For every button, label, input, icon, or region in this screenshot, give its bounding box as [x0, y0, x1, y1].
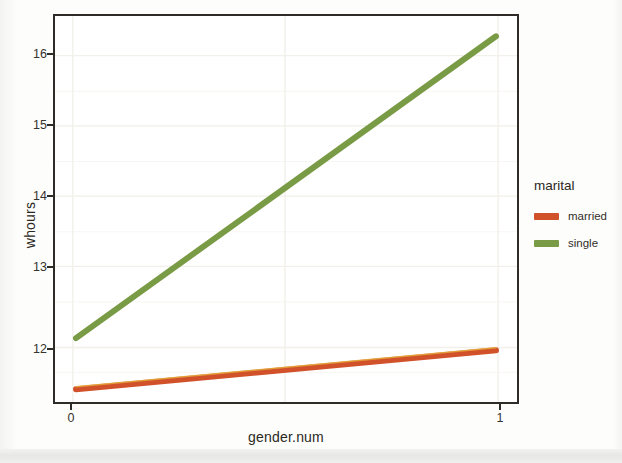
legend-swatch-married [534, 213, 559, 220]
x-tick-label-1: 1 [497, 412, 504, 425]
scan-edge-left [0, 0, 18, 449]
plot-panel [53, 14, 519, 404]
legend-item-married[interactable]: married [534, 205, 620, 227]
series-line-married-scan-highlight [76, 348, 496, 387]
legend-item-single[interactable]: single [534, 232, 620, 254]
plot-area [55, 16, 517, 402]
x-tick-mark-0 [70, 404, 72, 410]
chart-figure: 16 15 14 13 12 whours 0 1 gender.num mar… [0, 0, 622, 463]
y-tick-mark-15 [47, 124, 53, 126]
y-tick-mark-13 [47, 266, 53, 268]
y-tick-mark-16 [47, 53, 53, 55]
series-line-married [76, 350, 496, 389]
grid-lines-horizontal-minor [55, 91, 517, 372]
y-tick-label-12: 12 [33, 343, 47, 356]
scan-band-bottom [0, 449, 622, 463]
legend-label-single: single [568, 237, 598, 249]
y-axis-title: whours [22, 202, 38, 248]
x-tick-label-0: 0 [68, 412, 75, 425]
y-tick-label-13: 13 [33, 261, 47, 274]
y-tick-mark-12 [47, 348, 53, 350]
legend-swatch-single [534, 240, 559, 247]
y-axis-title-wrapper: whours [26, 0, 27, 463]
series-line-single [76, 36, 496, 338]
y-tick-label-15: 15 [33, 119, 47, 132]
legend-label-married: married [568, 210, 607, 222]
y-tick-label-16: 16 [33, 48, 47, 61]
grid-lines-vertical [73, 16, 498, 402]
y-tick-mark-14 [47, 195, 53, 197]
y-tick-label-14: 14 [33, 190, 47, 203]
x-axis-title: gender.num [248, 429, 324, 445]
legend-title: marital [534, 178, 620, 193]
x-tick-mark-1 [499, 404, 501, 410]
legend: marital married single [534, 178, 620, 259]
